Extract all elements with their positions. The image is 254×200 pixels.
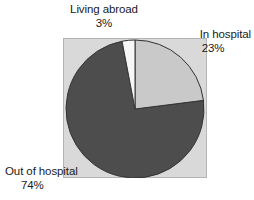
pie-chart-figure: Living abroad 3% In hospital 23% Out of … [0,0,254,200]
slice-label-in-hospital-name: In hospital [200,28,251,40]
slice-label-in-hospital-percent: 23% [200,42,251,56]
slice-label-out-of-hospital-percent: 74% [5,179,78,193]
slice-label-in-hospital: In hospital 23% [200,28,251,55]
pie-slice-in-hospital [135,40,203,109]
slice-label-living-abroad: Living abroad 3% [0,3,208,30]
pie-slices [63,38,207,178]
slice-label-out-of-hospital-name: Out of hospital [5,165,78,177]
slice-label-living-abroad-name: Living abroad [70,3,138,15]
slice-label-living-abroad-percent: 3% [0,17,208,31]
slice-label-out-of-hospital: Out of hospital 74% [5,165,78,192]
